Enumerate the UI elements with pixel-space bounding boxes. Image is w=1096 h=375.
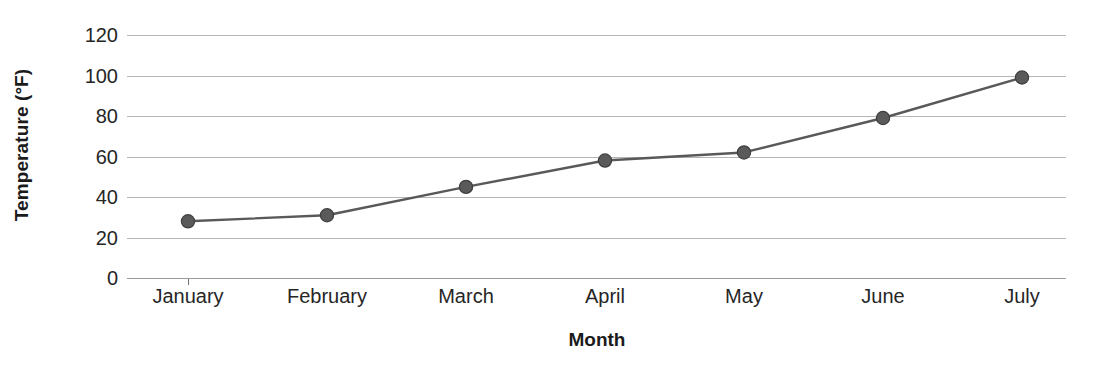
y-tick-label-20: 20 — [46, 228, 118, 248]
data-point-february — [320, 209, 333, 222]
x-axis-title: Month — [0, 329, 1096, 351]
y-tick-label-60: 60 — [46, 147, 118, 167]
y-tick-label-40: 40 — [46, 187, 118, 207]
y-tick-label-120: 120 — [46, 25, 118, 45]
y-tick-label-80: 80 — [46, 106, 118, 126]
y-tick-label-100: 100 — [46, 66, 118, 86]
plot-area — [127, 35, 1066, 278]
y-axis-title-label: Temperature (°F) — [11, 69, 33, 221]
data-point-march — [459, 180, 472, 193]
data-point-july — [1015, 71, 1028, 84]
series-line-temperature — [127, 35, 1066, 278]
x-tick-label-may: May — [725, 286, 763, 306]
x-tick-label-february: February — [287, 286, 367, 306]
data-point-april — [598, 154, 611, 167]
y-axis-title: Temperature (°F) — [0, 0, 44, 290]
series-polyline — [188, 78, 1022, 222]
x-axis-tick-mark — [188, 279, 189, 285]
data-point-january — [181, 215, 194, 228]
data-point-may — [737, 146, 750, 159]
x-axis-tick-labels: JanuaryFebruaryMarchAprilMayJuneJuly — [0, 286, 1096, 316]
series-markers — [181, 71, 1028, 228]
gridline-0 — [127, 278, 1066, 279]
x-axis-title-label: Month — [569, 329, 626, 351]
x-tick-label-april: April — [585, 286, 625, 306]
x-tick-label-january: January — [152, 286, 223, 306]
x-tick-label-july: July — [1004, 286, 1040, 306]
x-tick-label-june: June — [861, 286, 904, 306]
line-chart: Temperature (°F) 020406080100120 January… — [0, 0, 1096, 375]
y-tick-label-0: 0 — [46, 268, 118, 288]
y-axis-tick-labels: 020406080100120 — [46, 0, 118, 375]
x-tick-label-march: March — [438, 286, 494, 306]
data-point-june — [876, 111, 889, 124]
